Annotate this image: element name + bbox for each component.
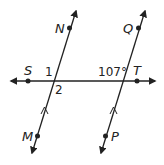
point-s bbox=[26, 79, 31, 84]
point-t bbox=[135, 79, 140, 84]
point-m bbox=[35, 134, 40, 139]
parallel-lines-diagram: S T N M Q P 1 2 107° bbox=[0, 0, 164, 165]
label-p: P bbox=[111, 129, 119, 144]
label-t: T bbox=[133, 63, 142, 78]
point-p bbox=[103, 134, 108, 139]
label-s: S bbox=[24, 63, 32, 78]
point-q bbox=[136, 26, 141, 31]
label-q: Q bbox=[123, 21, 133, 36]
label-m: M bbox=[22, 129, 33, 144]
point-n bbox=[67, 26, 72, 31]
angle-2-label: 2 bbox=[55, 83, 63, 97]
angle-107-label: 107° bbox=[98, 65, 127, 79]
label-n: N bbox=[55, 21, 65, 36]
angle-1-label: 1 bbox=[45, 65, 53, 79]
line-mn bbox=[32, 11, 76, 153]
